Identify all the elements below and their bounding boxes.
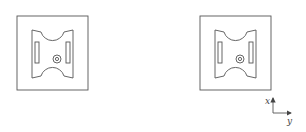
y-axis-label: y [286, 116, 293, 126]
coordinate-axes: x y [265, 96, 293, 126]
x-axis-label: x [265, 96, 270, 106]
part-view-left [17, 16, 88, 90]
diagram-canvas: x y [0, 0, 306, 132]
part-view-right [200, 16, 271, 90]
